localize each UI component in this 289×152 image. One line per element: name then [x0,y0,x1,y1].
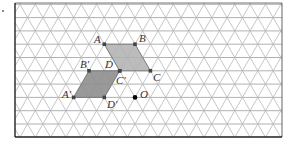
grid-line [269,0,289,152]
grid-line [0,0,1,152]
triangular-grid [0,0,289,152]
grid-line [223,0,289,152]
vertex-marker [133,42,137,46]
isometric-grid-diagram: ABCDC'B'A'D'O [0,0,289,152]
grid-line [115,0,215,152]
grid-line [285,0,289,152]
point-label: B [139,32,146,44]
grid-line [0,0,17,152]
grid-line [284,0,289,152]
grid-line [207,0,289,152]
grid-line [253,0,289,152]
point-label: O [140,88,148,100]
center-point-o [133,95,138,100]
point-label: B' [80,58,90,70]
list-bullet [2,10,4,12]
grid-line [0,0,32,152]
grid-line [222,0,289,152]
grid-line [161,0,261,152]
grid-line [254,0,289,152]
grid-line [130,0,230,152]
point-label: D' [106,98,118,110]
vertex-marker [103,42,107,46]
grid-line [147,0,247,152]
grid-line [0,0,63,152]
grid-line [131,0,231,152]
grid-line [0,0,77,152]
vertex-marker [118,69,122,73]
grid-line [0,0,16,152]
grid-line [146,0,246,152]
vertex-marker [149,69,153,73]
grid-line [0,0,94,152]
point-label: A' [61,88,72,100]
grid-line [0,0,1,152]
grid-line [177,0,277,152]
grid-line [116,0,216,152]
grid-line [0,0,48,152]
point-label: A [93,33,101,45]
vertex-marker [72,96,76,100]
point-label: D [104,58,113,70]
point-label: C' [116,74,126,86]
grid-line [193,0,289,152]
grid-line [269,0,289,152]
grid-line [239,0,289,152]
grid-line [176,0,276,152]
grid-line [162,0,262,152]
vertex-marker [103,96,107,100]
point-label: C [153,71,161,83]
grid-line [0,0,78,152]
grid-line [192,0,289,152]
grid-line [208,0,289,152]
